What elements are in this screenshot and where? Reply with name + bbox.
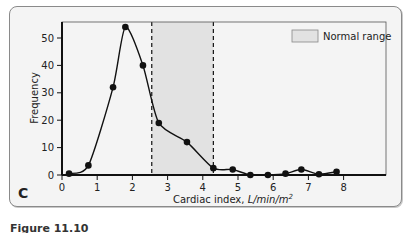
data-point-marker: [122, 24, 129, 31]
data-point-marker: [229, 166, 236, 173]
y-tick-label: 50: [41, 33, 54, 44]
data-point-marker: [85, 162, 92, 169]
y-tick-label: 40: [41, 60, 54, 71]
data-point-marker: [140, 62, 147, 69]
line-chart: 012345678 01020304050 Frequency Cardiac …: [0, 0, 405, 233]
panel-label: C: [18, 185, 28, 201]
data-point-marker: [156, 120, 163, 127]
normal-range-fill: [152, 22, 214, 175]
normal-range-shaded-region: [152, 22, 214, 175]
data-point-marker: [298, 166, 305, 173]
x-tick-label: 7: [305, 182, 311, 193]
figure-caption: Figure 11.10: [10, 222, 89, 233]
x-tick-label: 1: [94, 182, 100, 193]
y-axis-ticks: 01020304050: [41, 33, 62, 181]
data-point-marker: [184, 139, 191, 146]
y-tick-label: 10: [41, 142, 54, 153]
x-tick-label: 4: [200, 182, 206, 193]
legend-label-normal-range: Normal range: [323, 31, 391, 42]
x-tick-label: 5: [235, 182, 241, 193]
y-axis-title: Frequency: [29, 72, 40, 124]
data-point-marker: [110, 84, 117, 91]
x-tick-label: 0: [59, 182, 65, 193]
x-tick-label: 3: [164, 182, 170, 193]
x-tick-label: 6: [270, 182, 276, 193]
y-tick-label: 20: [41, 115, 54, 126]
legend: Normal range: [292, 30, 391, 42]
y-tick-label: 0: [48, 170, 54, 181]
x-tick-label: 8: [340, 182, 346, 193]
data-point-marker: [210, 165, 217, 172]
legend-swatch-normal-range: [292, 30, 318, 42]
x-axis-ticks: 012345678: [59, 175, 347, 193]
y-tick-label: 30: [41, 87, 54, 98]
x-tick-label: 2: [129, 182, 135, 193]
x-axis-title: Cardiac index, L/min/m2: [173, 193, 294, 205]
